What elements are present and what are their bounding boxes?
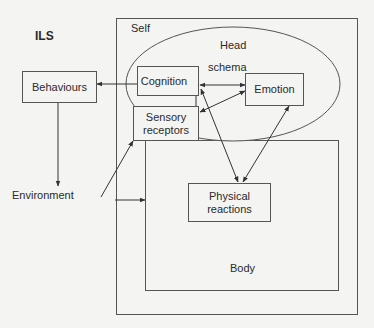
behaviours-node: Behaviours — [22, 71, 97, 103]
behaviours-label: Behaviours — [32, 81, 87, 94]
physical-label-line2: reactions — [207, 203, 252, 216]
schema-label: schema — [208, 61, 247, 74]
ils-diagram: ILS Self Head schema Body Behaviours Cog… — [0, 0, 374, 328]
diagram-title: ILS — [35, 30, 54, 43]
cognition-node: Cognition — [137, 66, 199, 96]
emotion-label: Emotion — [254, 83, 294, 96]
cognition-label: Cognition — [141, 75, 187, 88]
emotion-node: Emotion — [245, 73, 304, 106]
diagram-connectors — [0, 0, 374, 328]
sensory-label-line2: receptors — [143, 124, 189, 137]
environment-label: Environment — [12, 189, 74, 202]
head-label: Head — [220, 39, 246, 52]
body-label: Body — [230, 262, 255, 275]
physical-reactions-node: Physical reactions — [188, 183, 271, 222]
sensory-label-line1: Sensory — [146, 111, 186, 124]
physical-label-line1: Physical — [209, 190, 250, 203]
self-label: Self — [131, 22, 150, 35]
sensory-receptors-node: Sensory receptors — [133, 106, 199, 141]
